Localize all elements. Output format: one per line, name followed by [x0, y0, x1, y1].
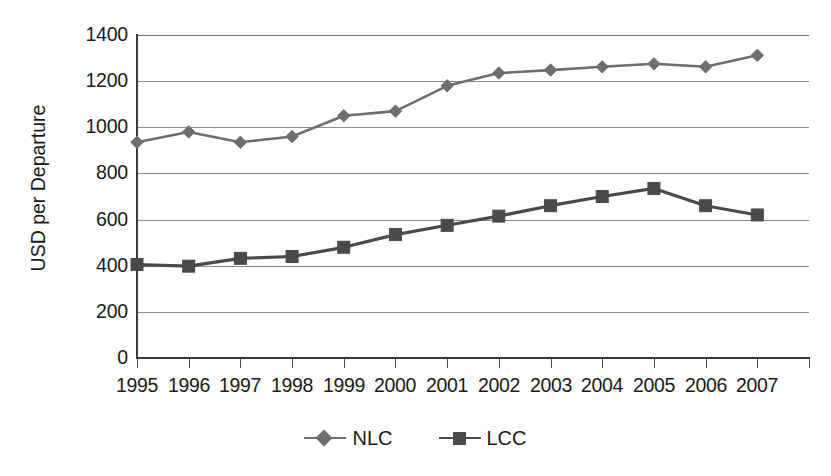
diamond-marker-icon	[389, 105, 401, 117]
diamond-marker-icon	[751, 49, 763, 61]
x-tick-mark-2007	[757, 359, 758, 368]
diamond-marker-icon	[648, 58, 660, 70]
x-tick-mark-2003	[551, 359, 552, 368]
y-tick-label-200: 200	[44, 302, 128, 322]
legend-swatch-nlc	[304, 430, 346, 446]
x-tick-mark-end	[809, 359, 810, 368]
diamond-marker-icon	[596, 61, 608, 73]
square-marker-icon	[596, 191, 608, 203]
gridline-200	[137, 312, 809, 313]
x-tick-mark-2001	[447, 359, 448, 368]
y-tick-label-1200: 1200	[44, 71, 128, 91]
y-axis-line	[136, 34, 138, 359]
x-tick-mark-2004	[602, 359, 603, 368]
gridline-600	[137, 220, 809, 221]
series-line-lcc	[137, 188, 757, 266]
diamond-marker-icon	[544, 64, 556, 76]
y-tick-label-0: 0	[44, 348, 128, 368]
x-tick-mark-1998	[292, 359, 293, 368]
square-marker-icon	[545, 200, 557, 212]
y-axis-tick-labels: 1400120010008006004002000	[36, 0, 128, 476]
diamond-marker-icon	[286, 130, 298, 142]
square-marker-icon	[453, 432, 466, 445]
legend-label-lcc: LCC	[487, 428, 527, 448]
square-marker-icon	[648, 182, 660, 194]
x-tick-mark-2006	[706, 359, 707, 368]
x-tick-mark-2002	[499, 359, 500, 368]
x-tick-mark-1995	[137, 359, 138, 368]
gridline-800	[137, 173, 809, 174]
square-marker-icon	[338, 241, 350, 253]
chart-legend: NLCLCC	[0, 428, 831, 448]
y-tick-label-400: 400	[44, 256, 128, 276]
x-tick-label-2007: 2007	[722, 374, 792, 396]
gridline-400	[137, 266, 809, 267]
y-tick-label-1400: 1400	[44, 25, 128, 45]
series-lcc	[131, 182, 763, 272]
diamond-marker-icon	[493, 67, 505, 79]
gridline-1400	[137, 35, 809, 36]
y-tick-label-800: 800	[44, 163, 128, 183]
gridline-1200	[137, 81, 809, 82]
legend-label-nlc: NLC	[352, 428, 392, 448]
y-tick-label-1000: 1000	[44, 117, 128, 137]
legend-item-lcc[interactable]: LCC	[439, 428, 527, 448]
square-marker-icon	[286, 250, 298, 262]
series-nlc	[131, 49, 764, 148]
gridline-1000	[137, 127, 809, 128]
x-tick-mark-2005	[654, 359, 655, 368]
square-marker-icon	[389, 229, 401, 241]
y-tick-label-600: 600	[44, 210, 128, 230]
x-tick-mark-1996	[189, 359, 190, 368]
x-tick-mark-2000	[395, 359, 396, 368]
legend-swatch-lcc	[439, 430, 481, 446]
diamond-marker-icon	[338, 110, 350, 122]
x-tick-mark-1997	[240, 359, 241, 368]
series-line-nlc	[137, 55, 757, 142]
legend-item-nlc[interactable]: NLC	[304, 428, 392, 448]
diamond-marker-icon	[234, 136, 246, 148]
diamond-marker-icon	[699, 61, 711, 73]
line-chart: USD per Departure 1400120010008006004002…	[0, 0, 831, 476]
diamond-marker-icon	[316, 430, 333, 447]
x-axis-line	[136, 357, 810, 359]
square-marker-icon	[441, 219, 453, 231]
square-marker-icon	[234, 252, 246, 264]
x-tick-mark-1999	[344, 359, 345, 368]
square-marker-icon	[700, 200, 712, 212]
